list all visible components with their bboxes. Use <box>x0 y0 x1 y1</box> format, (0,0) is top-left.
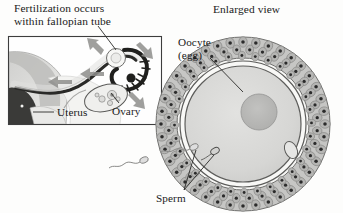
corona-cell-nucleus <box>267 59 270 62</box>
corona-cell-nucleus <box>235 48 238 51</box>
corona-cell-nucleus <box>178 97 181 100</box>
corona-cell-nucleus <box>284 61 287 64</box>
corona-cell-nucleus <box>254 55 257 58</box>
corona-cell-nucleus <box>322 135 326 139</box>
corona-cell-nucleus <box>302 165 305 168</box>
corona-cell-nucleus <box>267 200 271 204</box>
label-oocyte-line-2: (egg) <box>178 49 202 61</box>
enlarged-oocyte-group <box>156 37 330 211</box>
corona-cell-nucleus <box>323 122 327 126</box>
corona-cell-nucleus <box>167 116 170 119</box>
corona-cell-nucleus <box>313 142 316 145</box>
corona-cell-nucleus <box>185 162 188 165</box>
corona-cell-nucleus <box>241 204 245 208</box>
corona-cell-nucleus <box>299 64 303 68</box>
free-sperm-lower <box>109 156 149 168</box>
corona-cell-nucleus <box>241 40 245 44</box>
corona-cell-nucleus <box>189 175 192 178</box>
corona-cell-nucleus <box>228 41 232 45</box>
corona-cell-nucleus <box>273 190 276 193</box>
corona-cell-nucleus <box>168 159 172 163</box>
corona-cell-nucleus <box>198 183 201 186</box>
corona-cell-nucleus <box>313 103 316 106</box>
oocyte-nucleus <box>241 94 277 130</box>
uterus-speck <box>21 105 24 108</box>
corona-cell-nucleus <box>222 194 225 197</box>
corona-cell-nucleus <box>210 190 213 193</box>
corona-cell-nucleus <box>160 135 164 139</box>
corona-cell-nucleus <box>254 41 258 45</box>
corona-cell-nucleus <box>310 121 313 124</box>
corona-cell-nucleus <box>314 85 318 89</box>
corona-cell-nucleus <box>279 65 282 68</box>
corona-cell-nucleus <box>261 50 264 53</box>
corona-cell-nucleus <box>289 189 293 193</box>
corona-cell-nucleus <box>189 70 192 73</box>
fimbriae-core <box>127 74 136 83</box>
corona-cell-nucleus <box>173 124 176 127</box>
corona-cell-nucleus <box>175 74 179 78</box>
corona-cell-nucleus <box>299 160 302 163</box>
corona-cell-nucleus <box>169 103 172 106</box>
corona-cell-nucleus <box>168 85 172 89</box>
corona-cell-nucleus <box>227 56 230 59</box>
corona-cell-nucleus <box>316 116 319 119</box>
label-sperm: Sperm <box>156 192 186 205</box>
corona-cell-nucleus <box>174 91 177 94</box>
corona-cell-nucleus <box>184 85 187 88</box>
corona-cell-nucleus <box>289 56 293 60</box>
corona-cell-nucleus <box>299 180 303 184</box>
corona-cell-nucleus <box>216 200 220 204</box>
corona-cell-nucleus <box>229 190 232 193</box>
corona-cell-nucleus <box>159 122 163 126</box>
oocyte-cytoplasm <box>185 66 301 182</box>
corona-cell-nucleus <box>316 129 319 132</box>
corona-cell-nucleus <box>278 195 282 199</box>
page-title-fertilization: Fertilization occurswithin fallopian tub… <box>14 2 111 28</box>
fertilization-site-inner <box>111 53 121 63</box>
corona-cell-nucleus <box>309 108 312 111</box>
corona-cell-nucleus <box>309 135 312 138</box>
corona-cell-nucleus <box>298 84 301 87</box>
corona-cell-nucleus <box>248 197 251 200</box>
corona-cell-nucleus <box>216 186 219 189</box>
corona-cell-nucleus <box>248 48 251 51</box>
corona-cell-nucleus <box>180 79 183 82</box>
corona-cell-nucleus <box>294 175 297 178</box>
corona-cell-nucleus <box>308 74 312 78</box>
corona-cell-nucleus <box>322 109 326 113</box>
corona-cell-nucleus <box>278 49 282 53</box>
corona-cell-nucleus <box>267 44 271 48</box>
corona-cell-nucleus <box>192 75 195 78</box>
title-line-2: within fallopian tube <box>14 15 111 27</box>
corona-cell-nucleus <box>269 185 272 188</box>
corona-cell-nucleus <box>214 60 217 63</box>
corona-cell-nucleus <box>291 170 294 173</box>
corona-cell-nucleus <box>175 170 179 174</box>
corona-cell-nucleus <box>175 137 178 140</box>
label-ovary: Ovary <box>112 105 140 118</box>
corona-cell-nucleus <box>235 197 238 200</box>
corona-cell-nucleus <box>160 109 164 113</box>
corona-cell-nucleus <box>167 129 170 132</box>
corona-cell-nucleus <box>174 110 177 113</box>
corona-cell-nucleus <box>254 203 258 207</box>
corona-cell-nucleus <box>305 148 308 151</box>
title-line-1: Fertilization occurs <box>14 2 104 14</box>
corona-cell-nucleus <box>309 154 312 157</box>
corona-cell-nucleus <box>174 154 177 157</box>
corona-cell-nucleus <box>194 172 197 175</box>
label-oocyte: Oocyte(egg) <box>178 36 211 61</box>
corona-cell-nucleus <box>256 190 259 193</box>
corona-cell-nucleus <box>294 70 297 73</box>
corona-cell-nucleus <box>179 150 182 153</box>
corona-cell-nucleus <box>204 180 207 183</box>
corona-cell-nucleus <box>169 141 172 144</box>
corona-cell-nucleus <box>260 194 263 197</box>
corona-cell-nucleus <box>281 179 284 182</box>
corona-cell-nucleus <box>203 66 206 69</box>
corona-cell-nucleus <box>309 91 312 94</box>
corona-cell-nucleus <box>308 170 312 174</box>
figure-artwork <box>0 0 343 213</box>
corona-cell-nucleus <box>240 54 243 57</box>
